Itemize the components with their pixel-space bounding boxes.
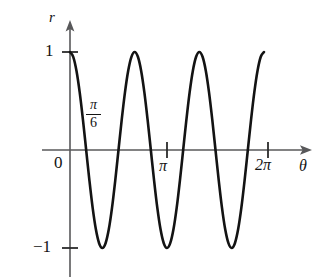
y-tick-label-1: 1 — [45, 42, 54, 59]
fraction-denominator: 6 — [89, 116, 98, 131]
x-tick-label-2pi: 2π — [255, 157, 271, 173]
x-axis — [42, 145, 312, 154]
origin-label: 0 — [54, 154, 63, 171]
x-tick-label-pi: π — [159, 158, 167, 174]
y-tick-label-minus-1: −1 — [33, 238, 51, 255]
x-axis-label: θ — [299, 158, 307, 174]
annotation-pi-over-six: π 6 — [86, 98, 101, 130]
polar-cosine-plot-figure: r θ 1 −1 0 π 2π π 6 — [0, 0, 323, 277]
fraction-numerator: π — [89, 98, 98, 113]
y-axis-label: r — [49, 10, 55, 25]
